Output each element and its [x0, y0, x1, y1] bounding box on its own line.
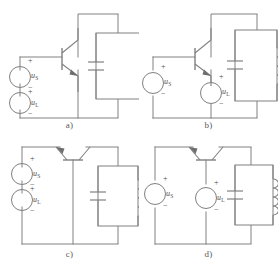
circuit-panel-c: + uS − + uL − c): [0, 134, 139, 268]
source-label-us-a: uS: [31, 72, 38, 80]
source-label-ul-d: uL: [217, 194, 224, 202]
source-label-ul-c: uL: [33, 196, 40, 204]
transistor-npn-a: [62, 28, 78, 92]
figure-sheet: + uS − + uL − a): [0, 0, 278, 268]
tank-loop-b: [235, 30, 277, 101]
wire-collector-top: [78, 14, 118, 57]
circuit-panel-a: + uS − + uL − a): [0, 0, 139, 134]
panel-caption-c: c): [0, 249, 139, 259]
polarity-plus-us-b: +: [161, 63, 166, 71]
polarity-minus-us-b: −: [161, 90, 166, 98]
panel-caption-d: d): [139, 249, 278, 259]
lc-tank-a: [96, 14, 139, 118]
source-label-us-d: uS: [166, 190, 173, 198]
inductor-d: [273, 165, 278, 225]
transistor-emitter-arrow-b: [203, 70, 212, 77]
lc-tank-c: [98, 147, 138, 244]
polarity-plus-ul-a: +: [28, 88, 33, 96]
panel-caption-b: b): [139, 120, 278, 130]
circuit-schematic-a: [0, 0, 139, 134]
circuit-schematic-d: [139, 134, 278, 268]
wire-collector-top-b: [211, 14, 257, 57]
polarity-minus-ul-d: −: [214, 206, 219, 214]
polarity-minus-us-d: −: [163, 202, 168, 210]
transistor-collector-lead: [62, 28, 78, 53]
circuit-panel-b: + uS − + uL − b): [139, 0, 278, 134]
transistor-emitter-lead-c: [79, 147, 90, 160]
transistor-emitter-arrow-a: [70, 70, 79, 77]
tank-loop: [96, 33, 139, 99]
circuit-schematic-c: [0, 134, 139, 268]
inductor-b: [277, 30, 278, 101]
transistor-npn-b: [195, 28, 211, 86]
polarity-plus-ul-c: +: [30, 185, 35, 193]
polarity-minus-ul-a: −: [28, 110, 33, 118]
transistor-emitter-lead: [62, 64, 78, 92]
polarity-plus-ul-b: +: [219, 73, 224, 81]
tank-loop-c: [98, 166, 138, 226]
lc-tank-d: [235, 147, 273, 244]
transistor-emitter-lead-d: [212, 147, 223, 160]
lc-tank-b: [235, 14, 277, 118]
transistor-collector-lead-b: [195, 28, 211, 53]
circuit-schematic-b: [139, 0, 278, 134]
source-label-ul-a: uL: [31, 99, 38, 107]
transistor-emitter-arrow-d: [189, 147, 198, 154]
source-label-ul-b: uL: [222, 88, 229, 96]
tank-loop-d: [235, 165, 273, 225]
transistor-emitter-arrow-c: [56, 147, 65, 154]
polarity-minus-ul-c: −: [30, 207, 35, 215]
source-label-us-b: uS: [164, 78, 171, 86]
polarity-plus-us-c: +: [30, 155, 35, 163]
circuit-panel-d: + uS − + uL − d): [139, 134, 278, 268]
polarity-plus-us-d: +: [163, 175, 168, 183]
source-label-us-c: uS: [33, 170, 40, 178]
panel-caption-a: a): [0, 120, 139, 130]
polarity-minus-ul-b: −: [219, 100, 224, 108]
polarity-plus-us-a: +: [28, 57, 33, 65]
polarity-plus-ul-d: +: [214, 179, 219, 187]
